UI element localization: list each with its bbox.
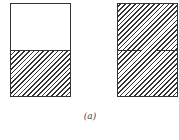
figure-caption: (a): [82, 110, 98, 122]
right-divider-line-right: [156, 50, 177, 51]
right-divider-line-left: [118, 50, 142, 51]
left-bottom-hatched-region: [11, 51, 70, 96]
right-rectangle: [117, 3, 178, 97]
left-top-empty-region: [11, 4, 70, 50]
diagram-figure: (a): [0, 0, 179, 140]
left-rectangle: [10, 3, 71, 97]
